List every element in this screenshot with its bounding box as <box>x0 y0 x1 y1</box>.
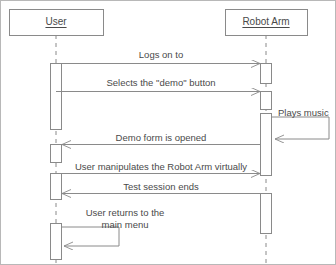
message-label-test-session-ends: Test session ends <box>123 181 199 192</box>
activation-bar-user <box>51 64 62 260</box>
message-arrow-plays-music[interactable] <box>272 117 329 139</box>
message-label-user-returns-line-2: main menu <box>102 219 149 230</box>
message-label-user-returns-line-1: User returns to the <box>86 207 165 218</box>
actor-label-user: User <box>45 16 66 27</box>
message-label-demo-form-is-opened: Demo form is opened <box>116 132 207 143</box>
message-label-logs-on-to: Logs on to <box>139 49 183 60</box>
message-label-plays-music: Plays music <box>278 107 329 118</box>
actor-label-robot-arm: Robot Arm <box>242 16 289 27</box>
message-label-user-manipulates-robot-arm: User manipulates the Robot Arm virtually <box>75 161 247 172</box>
message-label-selects-demo-button: Selects the "demo" button <box>106 77 215 88</box>
activation-bar-robot-arm <box>261 64 272 234</box>
sequence-diagram-canvas: User Robot Arm Logs on to Selects the "d… <box>0 0 336 265</box>
